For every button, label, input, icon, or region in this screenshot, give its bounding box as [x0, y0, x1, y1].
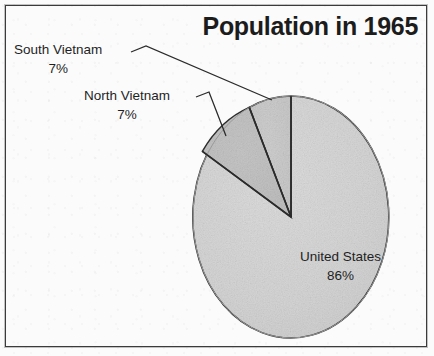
pie-label-north-vietnam: North Vietnam 7% [84, 86, 170, 124]
pie-label-south-vietnam-percent: 7% [14, 59, 102, 78]
pie-label-united-states: United States 86% [300, 247, 381, 285]
pie-label-south-vietnam-name: South Vietnam [14, 42, 102, 57]
pie-label-south-vietnam: South Vietnam 7% [14, 40, 102, 78]
pie-label-north-vietnam-name: North Vietnam [84, 88, 170, 103]
pie-label-north-vietnam-percent: 7% [84, 105, 170, 124]
pie-label-united-states-name: United States [300, 249, 381, 264]
chart-page: Population in 1965 [0, 0, 434, 356]
pie-label-united-states-percent: 86% [300, 266, 381, 285]
